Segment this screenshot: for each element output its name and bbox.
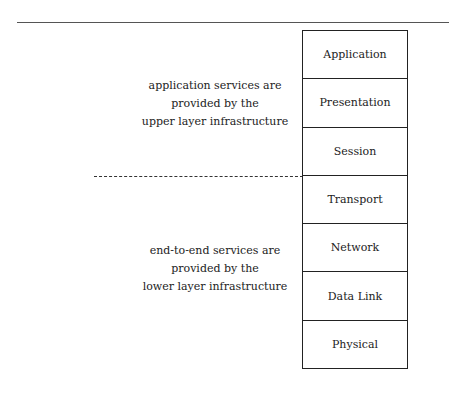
layer-session: Session: [303, 128, 407, 176]
layer-data-link: Data Link: [303, 272, 407, 320]
layer-transport: Transport: [303, 176, 407, 224]
annotation-line: provided by the: [125, 95, 305, 113]
annotation-line: application services are: [125, 77, 305, 95]
layer-network: Network: [303, 224, 407, 272]
annotation-line: end-to-end services are: [125, 242, 305, 260]
annotation-line: provided by the: [125, 260, 305, 278]
upper-layer-annotation: application services are provided by the…: [125, 77, 305, 131]
top-rule: [17, 22, 449, 23]
layer-presentation: Presentation: [303, 79, 407, 127]
upper-lower-divider-dashed-line: [94, 176, 303, 177]
osi-layer-stack: Application Presentation Session Transpo…: [302, 30, 408, 369]
layer-application: Application: [303, 31, 407, 79]
lower-layer-annotation: end-to-end services are provided by the …: [125, 242, 305, 296]
annotation-line: upper layer infrastructure: [125, 113, 305, 131]
layer-physical: Physical: [303, 321, 407, 368]
annotation-line: lower layer infrastructure: [125, 278, 305, 296]
